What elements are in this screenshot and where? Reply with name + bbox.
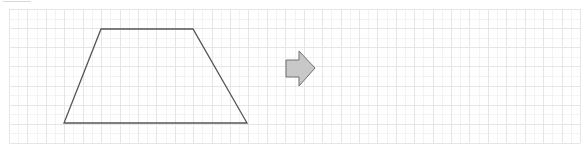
diagram-canvas (0, 0, 584, 153)
right-arrow-icon (286, 51, 315, 86)
